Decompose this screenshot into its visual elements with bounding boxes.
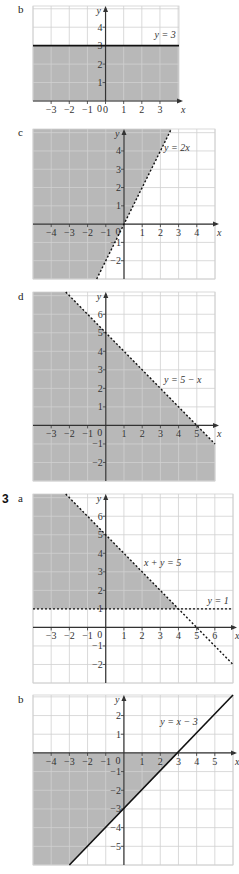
svg-text:x: x <box>216 227 222 238</box>
svg-text:5: 5 <box>212 756 217 767</box>
svg-text:−2: −2 <box>110 255 121 266</box>
equation-label: y = 2x <box>163 142 190 153</box>
svg-text:−2: −2 <box>64 428 75 439</box>
svg-text:3: 3 <box>98 364 103 375</box>
svg-text:y: y <box>96 493 102 504</box>
svg-text:−3: −3 <box>46 428 57 439</box>
svg-text:3: 3 <box>98 566 103 577</box>
svg-text:6: 6 <box>98 309 103 320</box>
equation-label: y = x − 3 <box>159 716 197 727</box>
svg-text:1: 1 <box>122 428 127 439</box>
svg-text:−1: −1 <box>82 104 93 115</box>
svg-text:3: 3 <box>158 630 163 641</box>
svg-text:5: 5 <box>194 428 199 439</box>
equation-label: y = 5 − x <box>163 374 202 385</box>
svg-text:−3: −3 <box>64 756 75 767</box>
svg-text:x: x <box>180 104 186 115</box>
svg-text:1: 1 <box>121 630 126 641</box>
svg-text:6: 6 <box>212 630 217 641</box>
svg-text:−3: −3 <box>46 630 57 641</box>
svg-text:3: 3 <box>176 756 181 767</box>
svg-text:2: 2 <box>98 59 103 70</box>
svg-text:1: 1 <box>98 77 103 88</box>
graph-d: xy−3−2−1123450−2−1123456y = 5 − x <box>33 291 222 481</box>
svg-text:−1: −1 <box>92 640 103 651</box>
svg-text:y: y <box>114 694 120 705</box>
svg-text:4: 4 <box>194 756 199 767</box>
svg-text:x: x <box>216 428 222 439</box>
x-arrow-icon <box>213 423 219 428</box>
svg-text:−2: −2 <box>82 756 93 767</box>
svg-text:−2: −2 <box>64 104 75 115</box>
svg-text:4: 4 <box>176 428 181 439</box>
svg-text:2: 2 <box>116 182 121 193</box>
svg-text:2: 2 <box>116 710 121 721</box>
svg-text:2: 2 <box>140 428 145 439</box>
y-arrow-icon <box>103 494 108 500</box>
svg-text:0: 0 <box>97 103 102 114</box>
svg-text:−2: −2 <box>82 227 93 238</box>
svg-text:0: 0 <box>103 104 108 115</box>
svg-text:3: 3 <box>157 104 162 115</box>
svg-text:3: 3 <box>176 227 181 238</box>
svg-text:−5: −5 <box>110 841 121 852</box>
svg-text:4: 4 <box>98 346 103 357</box>
svg-text:4: 4 <box>116 145 121 156</box>
svg-text:4: 4 <box>176 630 181 641</box>
svg-text:y: y <box>96 5 102 16</box>
svg-text:2: 2 <box>140 630 145 641</box>
svg-text:−1: −1 <box>92 438 103 449</box>
svg-text:3: 3 <box>116 164 121 175</box>
graphs-canvas: xy−3−2−1012301234y = 3xy−4−3−2−112340−2−… <box>0 0 239 874</box>
svg-text:−4: −4 <box>46 227 57 238</box>
graph-c: xy−4−3−2−112340−2−11234y = 2x <box>33 128 222 279</box>
svg-text:−3: −3 <box>46 104 57 115</box>
svg-text:−2: −2 <box>110 785 121 796</box>
svg-text:2: 2 <box>158 756 163 767</box>
svg-text:6: 6 <box>98 511 103 522</box>
svg-text:1: 1 <box>140 756 145 767</box>
svg-text:−2: −2 <box>64 630 75 641</box>
svg-text:x: x <box>234 630 239 641</box>
svg-text:2: 2 <box>139 104 144 115</box>
svg-text:4: 4 <box>98 22 103 33</box>
equation-label: y = 3 <box>154 29 176 40</box>
equation-label: y = 1 <box>207 595 229 606</box>
x-arrow-icon <box>231 750 237 755</box>
svg-text:x: x <box>234 756 239 767</box>
shaded-region <box>33 129 171 279</box>
svg-text:−4: −4 <box>46 756 57 767</box>
graph-3b: xy−4−3−2−1123450−5−4−3−2−112y = x − 3 <box>33 694 239 865</box>
graph-3a: xy−3−2−11234560−2−1123456x + y = 5y = 1 <box>33 493 239 683</box>
svg-text:−2: −2 <box>92 659 103 670</box>
svg-text:0: 0 <box>115 755 120 766</box>
graph-b1: xy−3−2−1012301234y = 3 <box>33 5 186 115</box>
svg-text:−2: −2 <box>92 457 103 468</box>
svg-text:y: y <box>96 291 102 302</box>
y-arrow-icon <box>103 292 108 298</box>
svg-text:1: 1 <box>116 729 121 740</box>
svg-text:2: 2 <box>158 227 163 238</box>
svg-text:0: 0 <box>97 427 102 438</box>
svg-text:0: 0 <box>97 629 102 640</box>
equation-label: x + y = 5 <box>143 557 181 568</box>
svg-text:y: y <box>114 128 120 139</box>
svg-text:−3: −3 <box>64 227 75 238</box>
x-arrow-icon <box>231 625 237 630</box>
svg-text:−1: −1 <box>110 766 121 777</box>
x-arrow-icon <box>177 99 183 104</box>
svg-text:3: 3 <box>158 428 163 439</box>
svg-text:1: 1 <box>140 227 145 238</box>
y-arrow-icon <box>121 695 126 701</box>
svg-text:5: 5 <box>194 630 199 641</box>
svg-text:5: 5 <box>98 529 103 540</box>
svg-text:1: 1 <box>116 200 121 211</box>
svg-text:1: 1 <box>121 104 126 115</box>
svg-text:−4: −4 <box>110 822 121 833</box>
svg-text:1: 1 <box>98 401 103 412</box>
svg-text:2: 2 <box>98 585 103 596</box>
svg-text:4: 4 <box>98 548 103 559</box>
svg-text:2: 2 <box>98 383 103 394</box>
x-arrow-icon <box>213 222 219 227</box>
svg-text:5: 5 <box>98 327 103 338</box>
